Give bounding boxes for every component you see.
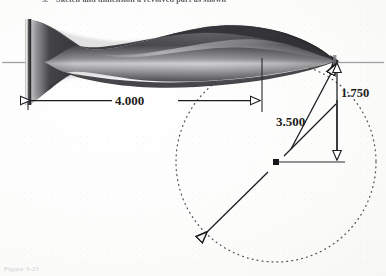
- figure-caption: Figure 3-23: [4, 265, 39, 273]
- dimension-label-1750: 1.750: [341, 86, 369, 100]
- dimension-label-3500: 3.500: [276, 114, 305, 129]
- dimension-label-4000: 4.000: [115, 93, 144, 108]
- dimension-3500: 3.500: [207, 63, 337, 232]
- cad-drawing-canvas: 4.000 3.500 1.750: [0, 0, 386, 276]
- figure-page: 3. Sketch and dimension a revolved part …: [0, 0, 386, 276]
- dimension-1750: 1.750: [278, 63, 386, 162]
- scan-ghost: [31, 22, 334, 102]
